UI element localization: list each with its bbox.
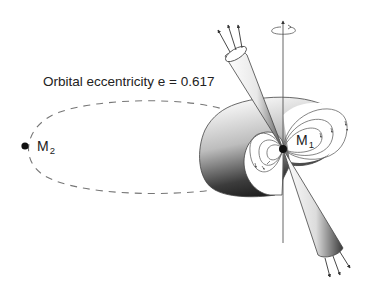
m2-label-main: M xyxy=(37,138,49,154)
eccentricity-label: Orbital eccentricity e = 0.617 xyxy=(43,74,214,89)
m2-label: M2 xyxy=(37,138,55,156)
m1-label: M1 xyxy=(296,132,314,150)
m1-label-sub: 1 xyxy=(309,139,314,150)
pulsar-m1-dot xyxy=(279,145,287,153)
lower-emission-beam xyxy=(283,149,350,277)
m1-label-main: M xyxy=(296,132,308,148)
spin-arrow-icon xyxy=(272,27,296,34)
companion-m2-dot xyxy=(21,142,28,149)
m2-label-sub: 2 xyxy=(50,145,55,156)
magnetosphere-torus xyxy=(200,97,346,197)
binary-pulsar-diagram xyxy=(0,0,372,293)
